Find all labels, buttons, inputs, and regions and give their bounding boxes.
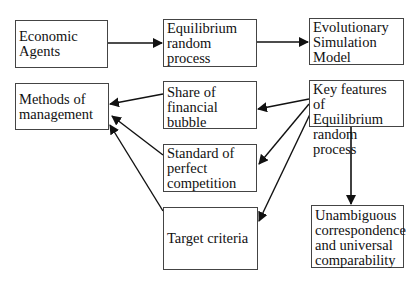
node-text: Methods	[19, 91, 70, 107]
node-text-row: Methods of	[19, 92, 105, 107]
diagram-canvas: Economic Agents Equilibrium random proce…	[0, 0, 417, 284]
node-target-criteria: Target criteria	[163, 207, 258, 270]
node-text: features	[341, 81, 387, 97]
edge-standard-to-methods	[112, 116, 163, 155]
node-text: Key	[313, 81, 337, 97]
node-text: Target criteria	[167, 231, 254, 246]
node-text: Evolutionary	[313, 20, 400, 35]
node-text: of	[313, 96, 325, 112]
node-text: Equilibrium	[167, 21, 253, 36]
node-text: management	[19, 107, 105, 122]
node-text-row: Standard of	[167, 146, 253, 161]
node-key-features: Key features of Equilibrium random proce…	[309, 80, 404, 127]
node-unambiguous-correspondence: Unambiguous correspondence and universal…	[311, 205, 404, 268]
node-text: and	[315, 237, 336, 253]
node-text-row: Key features of	[313, 82, 400, 112]
node-economic-agents: Economic Agents	[15, 20, 108, 68]
node-text: Standard	[167, 145, 219, 161]
node-text: Economic	[19, 29, 104, 44]
node-text: of	[222, 145, 234, 161]
node-text: Share	[167, 84, 200, 100]
node-text: Simulation	[313, 35, 400, 50]
edge-target-to-methods	[110, 125, 163, 211]
node-text: comparability	[315, 253, 400, 268]
node-text: competition	[167, 176, 253, 191]
node-share-of-financial-bubble: Share of financial bubble	[163, 81, 257, 129]
node-text: correspondence	[315, 223, 400, 238]
node-text: random process	[167, 36, 253, 66]
edge-keyfeatures-to-standard	[259, 104, 309, 164]
node-text: of	[73, 91, 85, 107]
node-text: of	[204, 84, 216, 100]
node-methods-of-management: Methods of management	[15, 83, 109, 130]
edge-keyfeatures-to-share	[258, 99, 309, 109]
node-text: Unambiguous	[315, 208, 400, 223]
node-text: Equilibrium	[313, 112, 400, 127]
node-text: perfect	[167, 161, 253, 176]
node-evolutionary-simulation-model: Evolutionary Simulation Model	[309, 18, 404, 65]
edge-keyfeatures-to-target	[259, 110, 312, 221]
node-text: universal	[340, 237, 393, 253]
node-text-row: and universal	[315, 238, 400, 253]
node-text: financial bubble	[167, 100, 253, 130]
node-text: Model	[313, 50, 400, 65]
node-equilibrium-random-process: Equilibrium random process	[163, 19, 257, 67]
node-text: random process	[313, 127, 400, 157]
node-standard-of-perfect-competition: Standard of perfect competition	[163, 144, 257, 192]
edge-share-to-methods	[110, 94, 163, 104]
node-text: Agents	[19, 44, 104, 59]
node-text-row: Share of	[167, 85, 253, 100]
